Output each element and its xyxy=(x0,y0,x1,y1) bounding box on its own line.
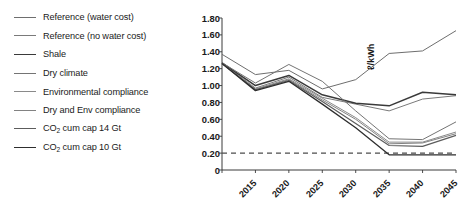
legend-item[interactable]: Dry and Env compliance xyxy=(14,101,189,120)
legend-item-label: Reference (water cost) xyxy=(43,12,134,22)
legend-item[interactable]: CO2 cum cap 10 Gt xyxy=(14,138,189,157)
legend-color-swatch xyxy=(14,54,36,55)
legend-item[interactable]: CO2 cum cap 14 Gt xyxy=(14,120,189,139)
legend-item-label: Shale xyxy=(43,49,66,59)
legend-item[interactable]: Reference (no water cost) xyxy=(14,27,189,46)
legend-color-swatch xyxy=(14,17,36,18)
legend-item-label: CO2 cum cap 14 Gt xyxy=(43,123,121,134)
legend-color-swatch xyxy=(14,147,36,148)
legend-color-swatch xyxy=(14,128,36,129)
legend-item-label: Environmental compliance xyxy=(43,87,148,97)
legend-item-label: Reference (no water cost) xyxy=(43,31,146,41)
legend-color-swatch xyxy=(14,110,36,111)
chart-legend: Reference (water cost)Reference (no wate… xyxy=(14,8,189,157)
legend-item-label: CO2 cum cap 10 Gt xyxy=(43,142,121,153)
legend-item-label: Dry climate xyxy=(43,68,88,78)
legend-item-label: Dry and Env compliance xyxy=(43,105,140,115)
series-line xyxy=(222,64,456,147)
legend-color-swatch xyxy=(14,91,36,92)
chart-figure: Reference (water cost)Reference (no wate… xyxy=(0,0,460,214)
series-line xyxy=(222,64,456,144)
chart-plot-area: ℓ/kWh 00.200.400.600.801.001.201.401.601… xyxy=(190,4,458,210)
series-line xyxy=(222,31,456,89)
legend-color-swatch xyxy=(14,35,36,36)
legend-color-swatch xyxy=(14,73,36,74)
series-line xyxy=(222,63,456,111)
legend-item[interactable]: Reference (water cost) xyxy=(14,8,189,27)
legend-item[interactable]: Dry climate xyxy=(14,64,189,83)
series-line xyxy=(222,64,456,143)
legend-item[interactable]: Environmental compliance xyxy=(14,82,189,101)
legend-item[interactable]: Shale xyxy=(14,45,189,64)
